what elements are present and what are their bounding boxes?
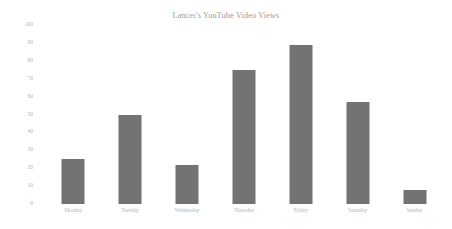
y-axis-tick-label: 60 [0, 94, 33, 99]
x-axis: MondayTuesdayWednesdayThursdayFridaySatu… [45, 206, 443, 222]
bar-slot [102, 25, 159, 204]
x-axis-tick-label: Tuesday [121, 208, 139, 213]
bar-slot [159, 25, 216, 204]
bar-chart: Lancer's YouTube Video Views 01020304050… [0, 0, 452, 229]
y-axis-tick-label: 0 [0, 201, 33, 206]
bar-slot [272, 25, 329, 204]
y-axis: 0102030405060708090100 [0, 25, 42, 204]
bar-wednesday[interactable] [176, 165, 199, 204]
y-axis-tick-label: 100 [0, 22, 33, 27]
y-axis-tick-label: 10 [0, 183, 33, 188]
x-axis-tick-label: Thursday [234, 208, 254, 213]
bar-slot [329, 25, 386, 204]
bar-slot [386, 25, 443, 204]
bar-saturday[interactable] [346, 102, 369, 204]
bar-sunday[interactable] [403, 190, 426, 204]
bar-friday[interactable] [289, 45, 312, 204]
y-axis-tick-label: 70 [0, 76, 33, 81]
x-axis-tick-label: Friday [294, 208, 308, 213]
bar-tuesday[interactable] [119, 115, 142, 205]
y-axis-tick-label: 30 [0, 148, 33, 153]
x-axis-tick-label: Sunday [406, 208, 422, 213]
bar-slot [45, 25, 102, 204]
bar-thursday[interactable] [232, 70, 255, 204]
chart-title: Lancer's YouTube Video Views [0, 11, 452, 20]
x-axis-tick-label: Monday [64, 208, 82, 213]
bar-slot [216, 25, 273, 204]
plot-area [45, 25, 443, 204]
y-axis-tick-label: 20 [0, 165, 33, 170]
y-axis-tick-label: 90 [0, 40, 33, 45]
bar-monday[interactable] [62, 159, 85, 204]
y-axis-tick-label: 50 [0, 112, 33, 117]
x-axis-tick-label: Wednesday [175, 208, 200, 213]
y-axis-tick-label: 40 [0, 130, 33, 135]
x-axis-tick-label: Saturday [348, 208, 367, 213]
y-axis-tick-label: 80 [0, 58, 33, 63]
